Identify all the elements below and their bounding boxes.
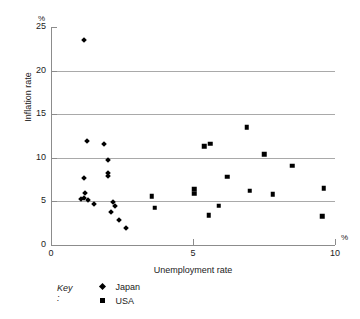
data-point-usa xyxy=(152,205,157,210)
y-tick-label: 20 xyxy=(20,65,46,75)
data-point-usa xyxy=(192,191,197,196)
y-axis-title: Inflation rate xyxy=(23,37,33,157)
y-tick xyxy=(51,245,57,246)
legend-title: Key : xyxy=(57,283,73,303)
diamond-marker-icon xyxy=(97,281,107,291)
data-point-japan xyxy=(105,173,111,179)
legend-label-usa: USA xyxy=(116,296,135,306)
x-axis-line xyxy=(51,245,335,246)
data-point-japan xyxy=(84,138,90,144)
data-point-usa xyxy=(202,144,207,149)
data-point-japan xyxy=(105,157,111,163)
data-point-japan xyxy=(123,225,129,231)
data-point-usa xyxy=(262,152,267,157)
data-point-usa xyxy=(248,189,253,194)
data-point-japan xyxy=(81,175,87,181)
plot-area xyxy=(51,27,335,245)
data-point-usa xyxy=(225,175,230,180)
y-tick-label: 15 xyxy=(20,108,46,118)
data-point-usa xyxy=(206,213,211,218)
data-point-usa xyxy=(270,192,275,197)
x-tick-label: 10 xyxy=(320,248,350,258)
y-tick-label: 5 xyxy=(20,195,46,205)
data-point-usa xyxy=(208,142,213,147)
x-tick xyxy=(335,239,336,245)
data-point-usa xyxy=(321,186,326,191)
data-point-japan xyxy=(81,37,87,43)
data-point-usa xyxy=(150,194,155,199)
x-axis-title: Unemployment rate xyxy=(118,265,268,275)
x-tick-label: 0 xyxy=(36,248,66,258)
data-point-japan xyxy=(85,197,91,203)
legend-label-japan: Japan xyxy=(116,282,141,292)
data-point-japan xyxy=(108,209,114,215)
y-tick-label: 10 xyxy=(20,152,46,162)
data-point-japan xyxy=(91,201,97,207)
square-marker-icon xyxy=(97,295,107,305)
y-tick-label: 25 xyxy=(20,21,46,31)
legend-item-japan[interactable]: Japan xyxy=(97,281,140,292)
x-tick-label: 5 xyxy=(178,248,208,258)
legend-item-usa[interactable]: USA xyxy=(97,295,134,306)
x-axis-unit-label: % xyxy=(341,233,348,242)
data-point-usa xyxy=(216,204,221,209)
data-point-usa xyxy=(290,163,295,168)
scatter-chart: % % Inflation rate Unemployment rate 051… xyxy=(0,0,360,319)
data-point-japan xyxy=(112,203,118,209)
data-point-japan xyxy=(116,217,122,223)
data-point-usa xyxy=(245,125,250,130)
data-point-usa xyxy=(320,214,325,219)
data-point-japan xyxy=(101,141,107,147)
